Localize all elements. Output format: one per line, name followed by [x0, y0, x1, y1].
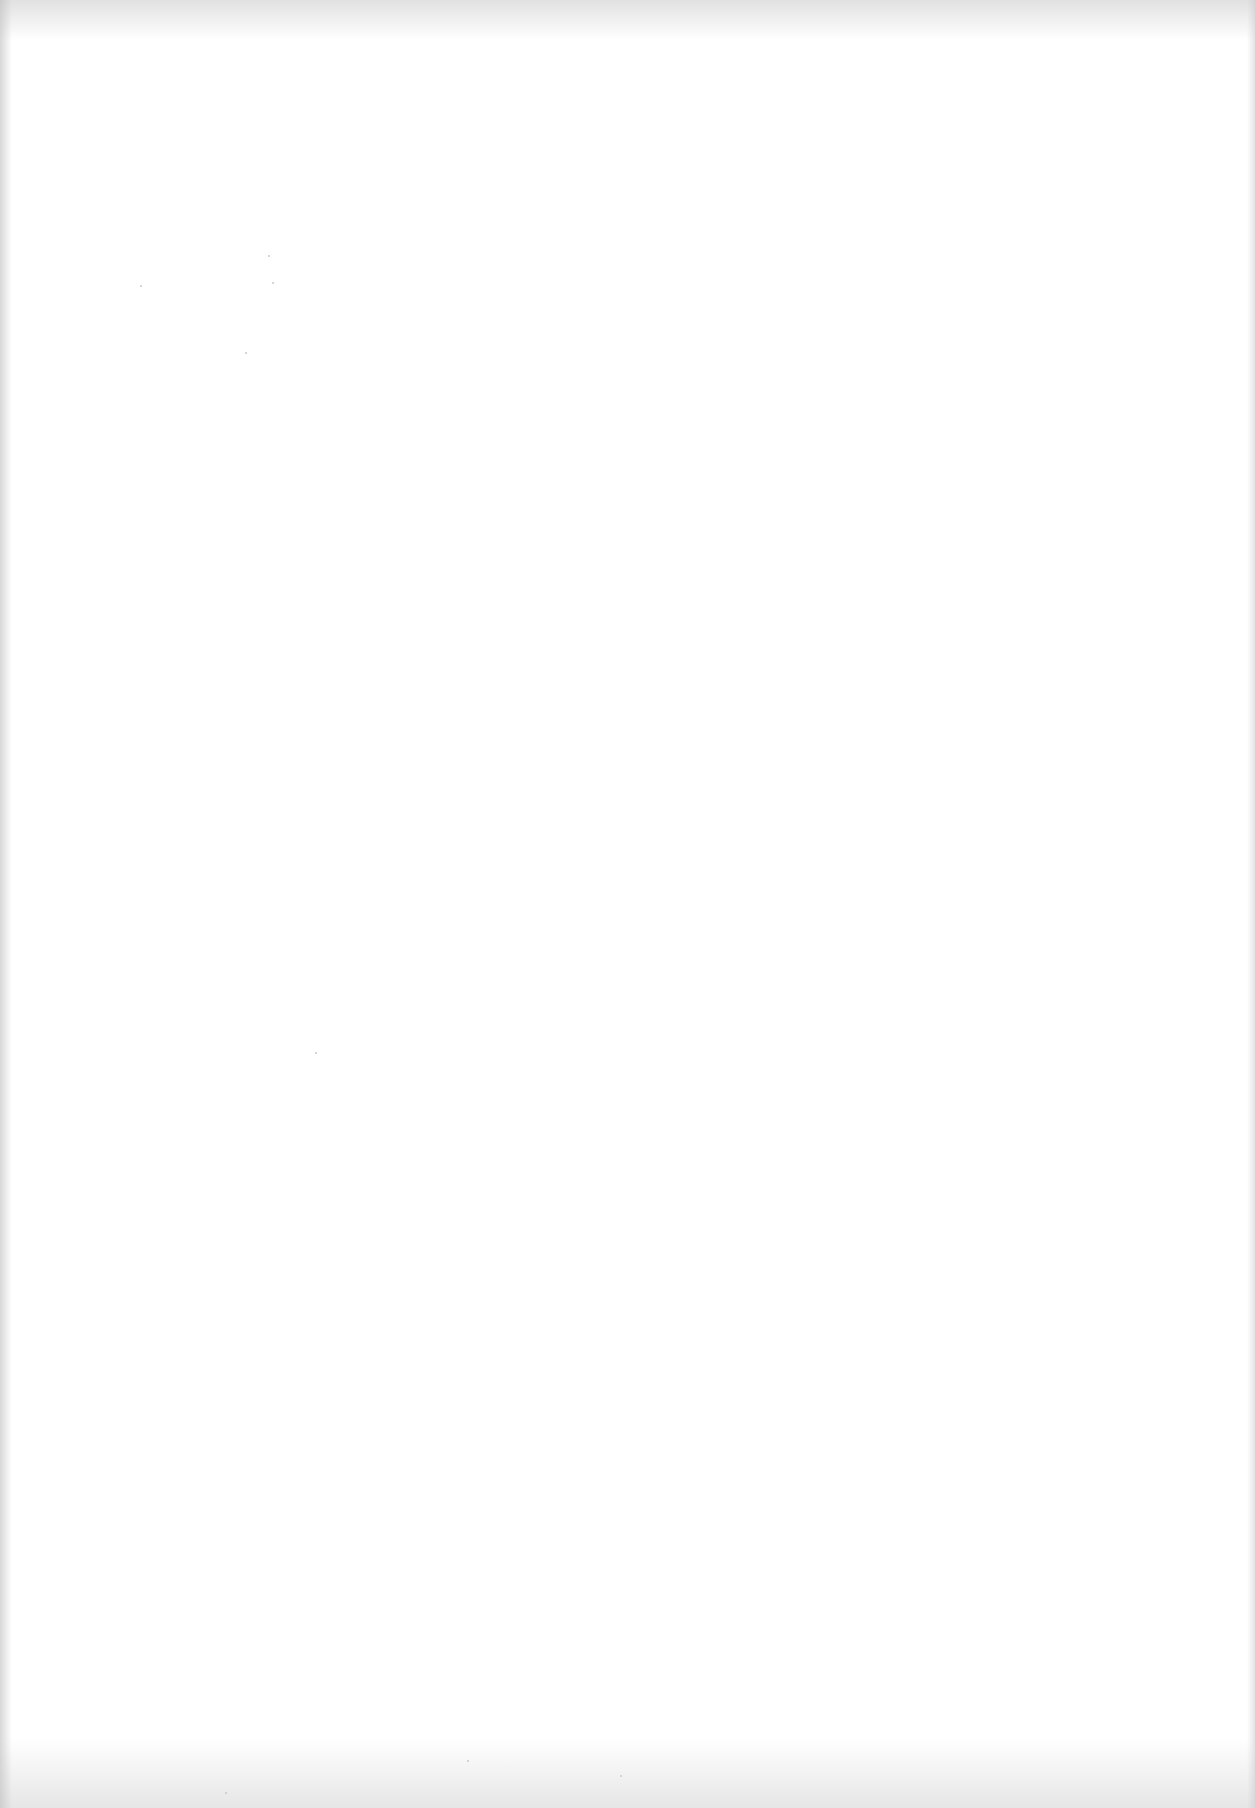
scan-speck: [467, 1760, 469, 1762]
scan-speck: [140, 285, 142, 287]
scan-edge-top: [0, 0, 1255, 40]
scan-speck: [268, 255, 270, 257]
scan-speck: [272, 282, 274, 284]
scan-edge-right: [1247, 0, 1255, 1808]
scan-speck: [620, 1775, 622, 1777]
scan-edge-left: [0, 0, 12, 1808]
scan-speck: [245, 352, 247, 354]
scan-edge-bottom: [0, 1738, 1255, 1808]
scan-speck: [225, 1792, 227, 1794]
scan-speck: [315, 1052, 317, 1054]
blank-page: [0, 0, 1255, 1808]
